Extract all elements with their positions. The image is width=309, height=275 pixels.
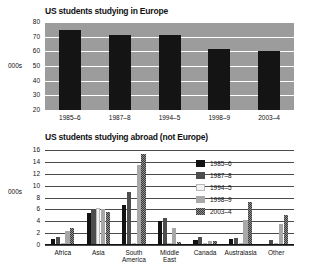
y-tick-label: 40 — [18, 78, 40, 85]
bar — [127, 192, 131, 245]
bar — [122, 205, 126, 245]
x-tick-label: 2003–4 — [243, 114, 295, 121]
legend-swatch-icon — [196, 208, 205, 215]
bar — [208, 49, 230, 110]
y-tick-label: 80 — [18, 19, 40, 26]
bar — [163, 218, 167, 245]
y-tick-label: 12 — [18, 171, 40, 178]
bar — [137, 165, 141, 245]
y-tick-label: 10 — [18, 183, 40, 190]
bar — [96, 208, 100, 245]
legend-label: 1994–5 — [210, 184, 232, 191]
bar — [159, 35, 181, 110]
bar-group — [45, 150, 81, 245]
gridline — [45, 245, 294, 246]
legend-item: 1998–9 — [196, 194, 274, 205]
y-tick-label: 8 — [18, 195, 40, 202]
x-tick-label: 1994–5 — [144, 114, 196, 121]
bar — [59, 30, 81, 110]
chart-top-title: US students studying in Europe — [45, 6, 168, 16]
x-tick-label: Other — [254, 249, 298, 256]
legend-swatch-icon — [196, 160, 205, 167]
bar — [279, 224, 283, 245]
y-tick-label: 4 — [18, 218, 40, 225]
y-tick-label: 0 — [18, 242, 40, 249]
legend-swatch-icon — [196, 196, 205, 203]
bar — [70, 228, 74, 245]
bar — [141, 154, 145, 245]
legend-swatch-icon — [196, 172, 205, 179]
legend-item: 2003–4 — [196, 206, 274, 217]
y-tick-label: 30 — [18, 92, 40, 99]
y-tick-label: 14 — [18, 159, 40, 166]
bar — [284, 215, 288, 245]
y-tick-label: 20 — [18, 107, 40, 114]
bar — [258, 51, 280, 110]
bar-group — [81, 150, 117, 245]
bar — [87, 213, 91, 245]
bar — [101, 209, 105, 245]
legend-label: 2003–4 — [210, 208, 232, 215]
y-tick-label: 50 — [18, 63, 40, 70]
bar — [172, 228, 176, 245]
chart-bottom-baseline — [45, 244, 294, 245]
y-tick-label: 70 — [18, 34, 40, 41]
legend-item: 1994–5 — [196, 182, 274, 193]
legend-swatch-icon — [196, 184, 205, 191]
bar — [158, 221, 162, 245]
x-tick-label: 1987–8 — [94, 114, 146, 121]
bar — [109, 35, 131, 110]
bar — [243, 220, 247, 245]
bar — [65, 231, 69, 245]
chart-page: US students studying in Europe 000s 2030… — [0, 0, 309, 275]
legend-label: 1998–9 — [210, 196, 232, 203]
x-tick-label: 1985–6 — [44, 114, 96, 121]
bar — [91, 209, 95, 245]
legend-label: 1985–6 — [210, 160, 232, 167]
y-tick-label: 2 — [18, 230, 40, 237]
y-tick-label: 6 — [18, 206, 40, 213]
chart-top-plot-area — [45, 22, 294, 110]
legend-item: 1987–8 — [196, 170, 274, 181]
chart-students-in-europe: US students studying in Europe 000s 2030… — [0, 0, 309, 128]
bar — [106, 212, 110, 245]
legend-item: 1985–6 — [196, 158, 274, 169]
x-tick-label: 1998–9 — [193, 114, 245, 121]
chart-bottom-title: US students studying abroad (not Europe) — [45, 132, 208, 142]
legend-label: 1987–8 — [210, 172, 232, 179]
bar-group — [152, 150, 188, 245]
y-tick-label: 60 — [18, 48, 40, 55]
gridline — [45, 22, 294, 23]
chart-bottom-legend: 1985–61987–81994–51998–92003–4 — [196, 158, 274, 218]
y-tick-label: 16 — [18, 147, 40, 154]
bar-group — [116, 150, 152, 245]
